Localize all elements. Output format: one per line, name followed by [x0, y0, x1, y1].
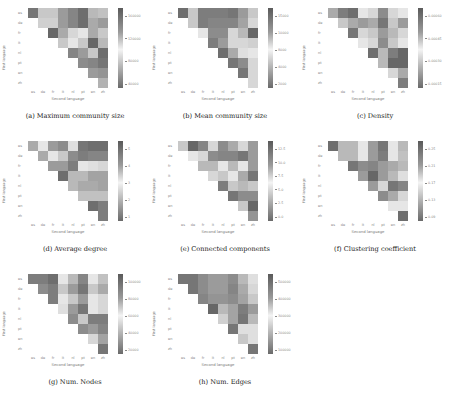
- heatmap-cell: [378, 141, 388, 151]
- heatmap-cell: [58, 334, 68, 344]
- heatmap-cell: [218, 334, 228, 344]
- heatmap-cell: [358, 18, 368, 28]
- heatmap-cell: [368, 181, 378, 191]
- heatmap-cell: [38, 141, 48, 151]
- heatmap-cell: [248, 68, 258, 78]
- heatmap-cell: [228, 58, 238, 68]
- colorbar-tick: 2.5: [275, 201, 283, 205]
- heatmap-cell: [378, 181, 388, 191]
- heatmap-cell: [198, 161, 208, 171]
- y-axis-label: First language: [302, 178, 306, 203]
- colorbar-ticks: 0.250.210.170.130.09: [425, 141, 450, 221]
- heatmap-cell: [348, 48, 358, 58]
- heatmap-cell: [178, 141, 188, 151]
- y-ticks: esdefritnlptenzh: [318, 141, 328, 221]
- heatmap-cell: [368, 191, 378, 201]
- heatmap-cell: [28, 294, 38, 304]
- heatmap-cell: [188, 28, 198, 38]
- heatmap-cell: [358, 48, 368, 58]
- heatmap-cell: [348, 18, 358, 28]
- y-tick: zh: [318, 211, 322, 221]
- heatmap-cell: [188, 324, 198, 334]
- x-tick: it: [208, 356, 218, 360]
- heatmap-cell: [178, 8, 188, 18]
- heatmap-cell: [348, 68, 358, 78]
- x-tick: nl: [368, 90, 378, 94]
- heatmap-cell: [328, 191, 338, 201]
- heatmap-cell: [58, 78, 68, 88]
- y-tick: zh: [168, 211, 172, 221]
- heatmap-cell: [218, 191, 228, 201]
- heatmap-cell: [58, 161, 68, 171]
- heatmap-cell: [218, 324, 228, 334]
- x-tick: es: [28, 356, 38, 360]
- y-tick: fr: [168, 294, 171, 304]
- heatmap-cell: [328, 201, 338, 211]
- colorbar-tick: 20000: [125, 348, 139, 352]
- heatmap-cell: [68, 161, 78, 171]
- heatmap-panel-h: First languageesdefritnlptenzhesdefritnl…: [150, 266, 300, 399]
- heatmap-cell: [28, 181, 38, 191]
- heatmap-cell: [88, 211, 98, 221]
- heatmap-cell: [68, 201, 78, 211]
- heatmap-cell: [48, 201, 58, 211]
- y-tick: it: [18, 304, 20, 314]
- heatmap-cell: [218, 151, 228, 161]
- heatmap-cell: [238, 78, 248, 88]
- heatmap-cell: [58, 344, 68, 354]
- y-tick: nl: [168, 48, 171, 58]
- y-tick: nl: [168, 314, 171, 324]
- heatmap-cell: [38, 201, 48, 211]
- heatmap-cell: [228, 324, 238, 334]
- heatmap-cell: [228, 18, 238, 28]
- heatmap-cell: [398, 151, 408, 161]
- x-tick: fr: [48, 223, 58, 227]
- colorbar-tick: 40000: [125, 331, 139, 335]
- heatmap-cell: [68, 68, 78, 78]
- heatmap-cell: [218, 68, 228, 78]
- x-tick: zh: [398, 90, 408, 94]
- heatmap-cell: [218, 211, 228, 221]
- y-axis-label: First language: [152, 311, 156, 336]
- heatmap-cell: [378, 171, 388, 181]
- heatmap-cell: [28, 274, 38, 284]
- heatmap-cell: [378, 48, 388, 58]
- x-tick: zh: [98, 90, 108, 94]
- heatmap-cell: [198, 191, 208, 201]
- heatmap-cell: [228, 344, 238, 354]
- heatmap-cell: [198, 48, 208, 58]
- heatmap-cell: [378, 8, 388, 18]
- x-tick: zh: [248, 356, 258, 360]
- x-tick: fr: [48, 356, 58, 360]
- heatmap-cell: [88, 48, 98, 58]
- heatmap-cell: [388, 18, 398, 28]
- heatmap-cell: [88, 78, 98, 88]
- colorbar-tick: 60000: [125, 314, 139, 318]
- y-tick: zh: [168, 78, 172, 88]
- heatmap-cell: [368, 161, 378, 171]
- heatmap-cell: [98, 78, 108, 88]
- heatmap-cell: [98, 58, 108, 68]
- heatmap-cell: [248, 314, 258, 324]
- colorbar-tick: 400000: [275, 297, 291, 301]
- heatmap-panel-a: First languageesdefritnlptenzhesdefritnl…: [0, 0, 150, 133]
- heatmap-cell: [248, 58, 258, 68]
- heatmap-cell: [178, 151, 188, 161]
- heatmap-cell: [338, 201, 348, 211]
- heatmap-cell: [188, 161, 198, 171]
- heatmap-cell: [208, 48, 218, 58]
- colorbar-ticks: 0.000600.000450.000300.00015: [425, 8, 450, 88]
- y-ticks: esdefritnlptenzh: [18, 8, 28, 88]
- y-tick: en: [318, 201, 322, 211]
- heatmap-cell: [368, 48, 378, 58]
- x-tick: pt: [78, 90, 88, 94]
- heatmap-cell: [248, 38, 258, 48]
- heatmap-cell: [358, 8, 368, 18]
- heatmap-grid: [178, 141, 258, 221]
- x-tick: it: [58, 223, 68, 227]
- heatmap-cell: [28, 324, 38, 334]
- heatmap-cell: [378, 78, 388, 88]
- heatmap-cell: [38, 344, 48, 354]
- heatmap-cell: [238, 191, 248, 201]
- heatmap-cell: [358, 171, 368, 181]
